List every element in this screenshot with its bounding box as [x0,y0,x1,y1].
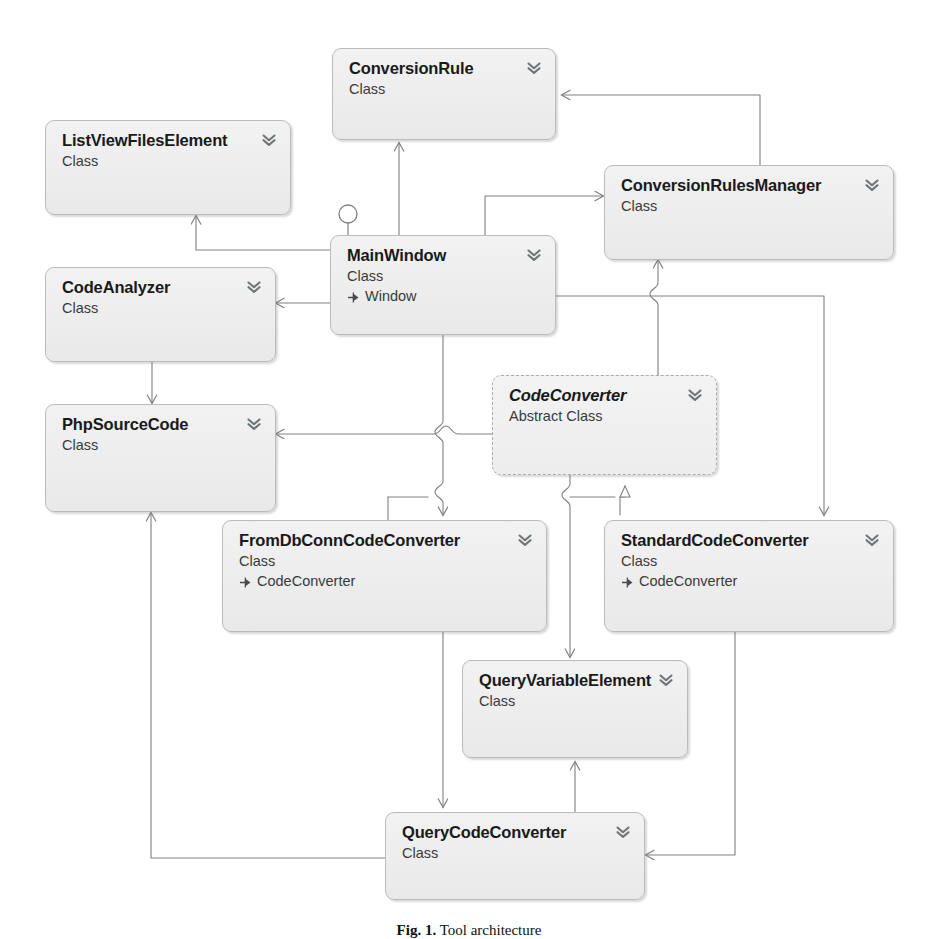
class-box-from-db-conn-code-converter[interactable]: FromDbConnCodeConverter Class CodeConver… [222,520,547,632]
class-stereotype: Class [239,554,532,570]
chevron-double-down-icon[interactable] [517,533,533,547]
class-title: CodeConverter [509,387,702,404]
class-title: MainWindow [347,247,541,264]
inherits-arrow-icon [239,576,252,589]
class-stereotype: Class [62,438,261,454]
chevron-double-down-icon[interactable] [526,61,542,75]
class-stereotype: Class [621,199,879,215]
edge-mainwindow-listviewfileselement [196,216,330,250]
edge-mainwindow-conversionrulesmanager [485,196,603,235]
figure-caption-text: Tool architecture [440,922,542,938]
class-base-type: CodeConverter [621,574,879,590]
class-base-label: Window [365,289,417,305]
class-box-conversion-rules-manager[interactable]: ConversionRulesManager Class [604,165,894,260]
class-box-code-converter[interactable]: CodeConverter Abstract Class [492,375,717,475]
class-stereotype: Abstract Class [509,409,702,425]
class-title: StandardCodeConverter [621,532,879,549]
chevron-double-down-icon[interactable] [864,178,880,192]
class-stereotype: Class [62,154,276,170]
class-base-type: CodeConverter [239,574,532,590]
class-title: PhpSourceCode [62,416,261,433]
chevron-double-down-icon[interactable] [615,825,631,839]
class-stereotype: Class [621,554,879,570]
class-base-label: CodeConverter [639,574,737,590]
class-title: CodeAnalyzer [62,279,261,296]
class-box-standard-code-converter[interactable]: StandardCodeConverter Class CodeConverte… [604,520,894,632]
class-box-php-source-code[interactable]: PhpSourceCode Class [45,404,276,512]
class-stereotype: Class [402,846,630,862]
class-box-main-window[interactable]: MainWindow Class Window [330,235,556,335]
class-title: ListViewFilesElement [62,132,276,149]
class-title: ConversionRulesManager [621,177,879,194]
edge-codeconverter-conversionrulesmanager [650,260,658,375]
chevron-double-down-icon[interactable] [246,417,262,431]
class-box-list-view-files-element[interactable]: ListViewFilesElement Class [45,120,291,215]
figure-caption-label: Fig. 1. [397,922,437,938]
class-title: QueryVariableElement [479,672,673,689]
inherits-arrow-icon [347,291,360,304]
chevron-double-down-icon[interactable] [864,533,880,547]
figure-caption: Fig. 1. Tool architecture [0,922,938,939]
edge-conversionrulesmanager-conversionrule [562,95,760,165]
chevron-double-down-icon[interactable] [261,133,277,147]
edge-codeconverter-queryvariableelement [562,475,570,657]
class-stereotype: Class [349,82,541,98]
class-title: FromDbConnCodeConverter [239,532,532,549]
chevron-double-down-icon[interactable] [687,388,703,402]
chevron-double-down-icon[interactable] [526,248,542,262]
edge-standardcodeconverter-codeconverter [620,486,625,515]
class-title: QueryCodeConverter [402,824,630,841]
class-base-label: CodeConverter [257,574,355,590]
chevron-double-down-icon[interactable] [658,673,674,687]
inherits-arrow-icon [621,576,634,589]
chevron-double-down-icon[interactable] [246,280,262,294]
class-box-query-variable-element[interactable]: QueryVariableElement Class [462,660,688,758]
class-box-conversion-rule[interactable]: ConversionRule Class [332,48,556,140]
class-stereotype: Class [347,269,541,285]
edge-codeconverter-phpsourcecode [276,426,492,434]
class-stereotype: Class [479,694,673,710]
class-base-type: Window [347,289,541,305]
class-box-code-analyzer[interactable]: CodeAnalyzer Class [45,267,276,362]
edge-mainwindow-fromdbconncodeconverter [435,335,443,515]
class-box-query-code-converter[interactable]: QueryCodeConverter Class [385,812,645,900]
class-stereotype: Class [62,301,261,317]
class-title: ConversionRule [349,60,541,77]
